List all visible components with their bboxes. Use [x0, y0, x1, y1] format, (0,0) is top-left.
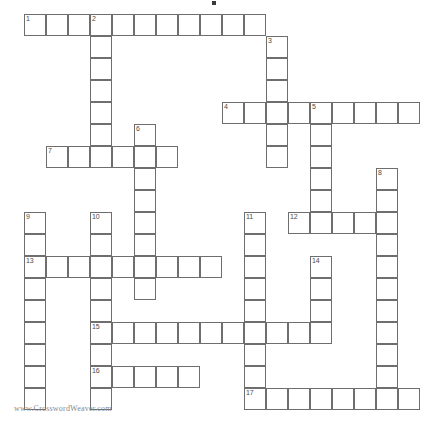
grid-cell[interactable]: [376, 234, 398, 256]
grid-cell[interactable]: [178, 256, 200, 278]
grid-cell[interactable]: [178, 366, 200, 388]
grid-cell[interactable]: [266, 146, 288, 168]
grid-cell[interactable]: [134, 14, 156, 36]
grid-cell[interactable]: [222, 322, 244, 344]
grid-cell[interactable]: [134, 190, 156, 212]
grid-cell[interactable]: [332, 102, 354, 124]
grid-cell[interactable]: [112, 366, 134, 388]
grid-cell[interactable]: [46, 14, 68, 36]
grid-cell[interactable]: [266, 322, 288, 344]
grid-cell[interactable]: [24, 366, 46, 388]
grid-cell[interactable]: [200, 256, 222, 278]
grid-cell[interactable]: [24, 322, 46, 344]
grid-cell[interactable]: [156, 14, 178, 36]
grid-cell[interactable]: [244, 14, 266, 36]
grid-cell[interactable]: [376, 388, 398, 410]
grid-cell[interactable]: [24, 300, 46, 322]
grid-cell[interactable]: [90, 80, 112, 102]
grid-cell[interactable]: 7: [46, 146, 68, 168]
grid-cell[interactable]: 11: [244, 212, 266, 234]
grid-cell[interactable]: [244, 234, 266, 256]
grid-cell[interactable]: [178, 14, 200, 36]
grid-cell[interactable]: [90, 278, 112, 300]
grid-cell[interactable]: [310, 278, 332, 300]
grid-cell[interactable]: 14: [310, 256, 332, 278]
grid-cell[interactable]: [376, 366, 398, 388]
grid-cell[interactable]: [310, 322, 332, 344]
grid-cell[interactable]: [112, 322, 134, 344]
grid-cell[interactable]: [288, 102, 310, 124]
grid-cell[interactable]: [68, 14, 90, 36]
grid-cell[interactable]: 15: [90, 322, 112, 344]
grid-cell[interactable]: [266, 80, 288, 102]
grid-cell[interactable]: [244, 322, 266, 344]
grid-cell[interactable]: [266, 102, 288, 124]
grid-cell[interactable]: 4: [222, 102, 244, 124]
grid-cell[interactable]: [134, 278, 156, 300]
grid-cell[interactable]: [24, 278, 46, 300]
grid-cell[interactable]: [156, 322, 178, 344]
grid-cell[interactable]: [112, 146, 134, 168]
grid-cell[interactable]: 16: [90, 366, 112, 388]
grid-cell[interactable]: [376, 300, 398, 322]
grid-cell[interactable]: [134, 366, 156, 388]
grid-cell[interactable]: [266, 388, 288, 410]
grid-cell[interactable]: [134, 256, 156, 278]
grid-cell[interactable]: [90, 344, 112, 366]
grid-cell[interactable]: 6: [134, 124, 156, 146]
grid-cell[interactable]: [288, 388, 310, 410]
grid-cell[interactable]: [68, 146, 90, 168]
grid-cell[interactable]: [222, 14, 244, 36]
grid-cell[interactable]: 9: [24, 212, 46, 234]
grid-cell[interactable]: [90, 234, 112, 256]
grid-cell[interactable]: [310, 190, 332, 212]
grid-cell[interactable]: [244, 278, 266, 300]
grid-cell[interactable]: [156, 256, 178, 278]
grid-cell[interactable]: [244, 256, 266, 278]
grid-cell[interactable]: [376, 322, 398, 344]
grid-cell[interactable]: 2: [90, 14, 112, 36]
grid-cell[interactable]: [332, 388, 354, 410]
grid-cell[interactable]: [310, 124, 332, 146]
grid-cell[interactable]: 13: [24, 256, 46, 278]
grid-cell[interactable]: 5: [310, 102, 332, 124]
grid-cell[interactable]: [376, 256, 398, 278]
grid-cell[interactable]: [134, 212, 156, 234]
grid-cell[interactable]: [200, 322, 222, 344]
grid-cell[interactable]: [134, 322, 156, 344]
grid-cell[interactable]: [288, 322, 310, 344]
grid-cell[interactable]: [90, 146, 112, 168]
grid-cell[interactable]: [376, 102, 398, 124]
grid-cell[interactable]: [376, 344, 398, 366]
grid-cell[interactable]: [244, 344, 266, 366]
grid-cell[interactable]: [244, 102, 266, 124]
grid-cell[interactable]: [310, 388, 332, 410]
grid-cell[interactable]: 17: [244, 388, 266, 410]
grid-cell[interactable]: [266, 58, 288, 80]
grid-cell[interactable]: [134, 168, 156, 190]
grid-cell[interactable]: [398, 388, 420, 410]
grid-cell[interactable]: [310, 168, 332, 190]
grid-cell[interactable]: 10: [90, 212, 112, 234]
grid-cell[interactable]: [200, 14, 222, 36]
grid-cell[interactable]: 12: [288, 212, 310, 234]
grid-cell[interactable]: [398, 102, 420, 124]
grid-cell[interactable]: 1: [24, 14, 46, 36]
grid-cell[interactable]: [310, 146, 332, 168]
grid-cell[interactable]: [90, 36, 112, 58]
grid-cell[interactable]: [134, 234, 156, 256]
grid-cell[interactable]: [156, 366, 178, 388]
grid-cell[interactable]: [68, 256, 90, 278]
grid-cell[interactable]: [134, 146, 156, 168]
grid-cell[interactable]: [90, 300, 112, 322]
grid-cell[interactable]: [112, 256, 134, 278]
grid-cell[interactable]: [376, 278, 398, 300]
grid-cell[interactable]: [310, 300, 332, 322]
grid-cell[interactable]: [90, 124, 112, 146]
grid-cell[interactable]: [90, 256, 112, 278]
grid-cell[interactable]: [376, 190, 398, 212]
grid-cell[interactable]: [24, 344, 46, 366]
grid-cell[interactable]: [156, 146, 178, 168]
grid-cell[interactable]: [24, 234, 46, 256]
grid-cell[interactable]: [112, 14, 134, 36]
